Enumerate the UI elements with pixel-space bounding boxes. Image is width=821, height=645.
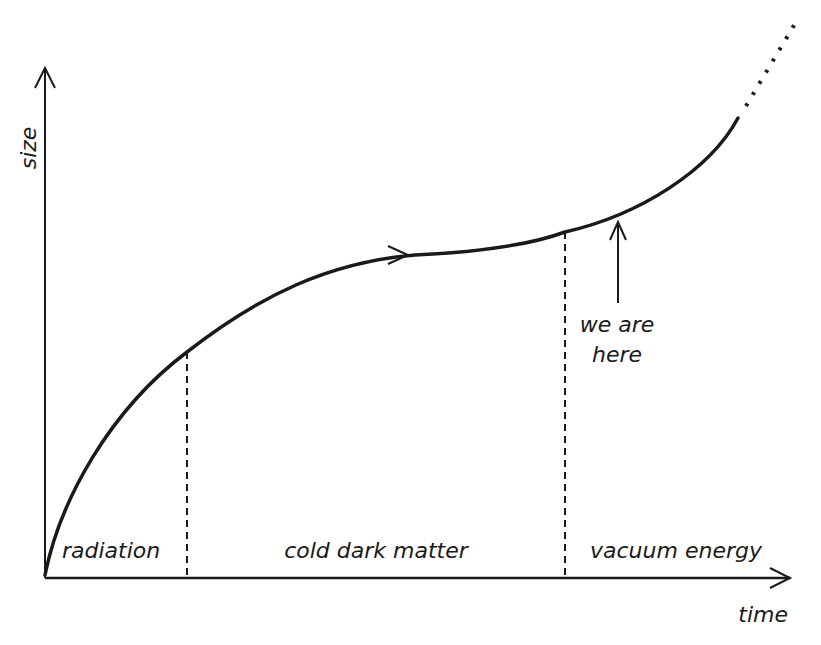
we-are-here-line2: here — [592, 342, 642, 367]
we-are-here-arrow-icon — [610, 222, 626, 303]
y-axis-label: size — [16, 127, 41, 170]
x-axis — [45, 568, 790, 588]
future-dotted-curve — [746, 22, 796, 106]
x-axis-label: time — [738, 602, 788, 627]
era-label-cold-dark-matter: cold dark matter — [284, 538, 470, 563]
era-label-radiation: radiation — [62, 538, 160, 563]
era-label-vacuum-energy: vacuum energy — [590, 538, 763, 563]
expansion-diagram: size time radiation cold dark matter vac… — [0, 0, 821, 645]
we-are-here-line1: we are — [580, 312, 655, 337]
